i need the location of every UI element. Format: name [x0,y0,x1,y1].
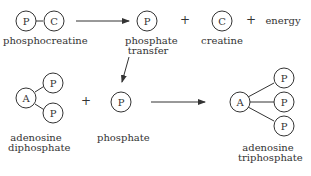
adenosine-circle: A [230,92,250,112]
creatine-circle: C [44,11,64,31]
bond-line [248,107,274,121]
phosphate-circle: P [111,92,131,112]
creatine-circle: C [212,11,232,31]
phosphate-label: phosphate [97,132,145,143]
svg-text:P: P [118,97,125,108]
svg-text:A: A [21,93,30,104]
svg-text:C: C [50,16,58,27]
plus-operator: + [180,15,190,26]
plus-operator: + [246,15,256,26]
phosphate-transfer-label-line2: transfer [125,45,171,56]
phosphate-circle: P [137,11,157,31]
svg-text:P: P [281,73,288,84]
creatine-label: creatine [200,35,244,46]
phosphate-circle: P [43,103,63,123]
phosphate-circle: P [16,11,36,31]
svg-text:C: C [218,16,226,27]
svg-text:P: P [50,78,57,89]
svg-text:P: P [281,121,288,132]
phosphate-circle: P [43,73,63,93]
transfer-arrow [122,57,129,82]
adp-label-line2: diphosphate [8,142,64,153]
plus-operator: + [81,96,91,107]
energy-label: energy [263,15,303,26]
atp-label-line2: triphosphate [238,152,298,163]
svg-text:P: P [23,16,30,27]
svg-text:P: P [281,97,288,108]
phosphate-circle: P [274,68,294,88]
phosphate-circle: P [274,92,294,112]
svg-text:P: P [50,108,57,119]
phosphate-circle: P [274,116,294,136]
svg-text:A: A [235,97,244,108]
adenosine-circle: A [16,88,36,108]
phosphocreatine-label: phosphocreatine [3,35,79,46]
svg-text:P: P [144,16,151,27]
bond-line [248,83,274,97]
